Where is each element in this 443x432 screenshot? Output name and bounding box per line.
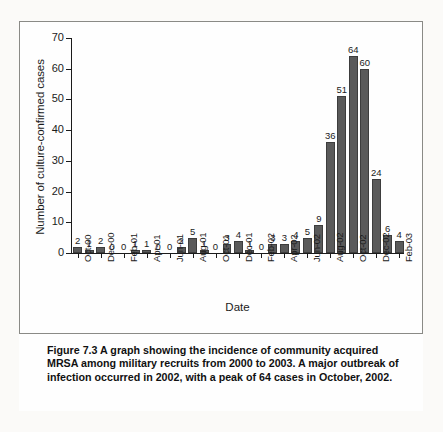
bar-slot: 36 — [325, 38, 336, 253]
x-tick-mark — [78, 253, 79, 258]
y-tick-label: 30 — [52, 154, 64, 166]
x-tick-label: Feb-02 — [265, 233, 276, 262]
x-tick-mark — [284, 253, 285, 258]
bar-value-label: 60 — [360, 58, 371, 68]
bar — [360, 69, 369, 253]
bar — [188, 238, 197, 253]
x-tick-mark — [147, 253, 148, 258]
bar-slot: 2 — [72, 38, 83, 253]
bar-slot: 2 — [95, 38, 106, 253]
bar-slot: 24 — [371, 38, 382, 253]
x-tick-label: Dec-00 — [105, 233, 116, 262]
bar-value-label: 5 — [190, 227, 195, 237]
x-tick-mark — [307, 253, 308, 258]
x-tick-label: Feb-03 — [403, 233, 414, 262]
bar-slot: 4 — [233, 38, 244, 253]
bar-slot: 4 — [290, 38, 301, 253]
bar-slot: 51 — [336, 38, 347, 253]
bar-slot: 5 — [187, 38, 198, 253]
y-tick-label: 0 — [58, 246, 64, 258]
y-tick-label: 60 — [52, 62, 64, 74]
chart: Number of culture-confirmed cases 010203… — [19, 21, 423, 333]
y-tick-mark — [66, 161, 71, 162]
bar-slot: 0 — [106, 38, 117, 253]
bar-slot: 3 — [279, 38, 290, 253]
bar — [234, 241, 243, 253]
x-tick-label: Oct-02 — [357, 235, 368, 262]
bar-value-label: 0 — [121, 242, 126, 252]
bar-value-label: 4 — [397, 230, 402, 240]
bar-value-label: 0 — [213, 242, 218, 252]
x-tick-mark — [330, 253, 331, 258]
y-axis-title: Number of culture-confirmed cases — [34, 47, 46, 247]
x-tick-mark — [170, 253, 171, 258]
bar-value-label: 0 — [259, 242, 264, 252]
bar-slot: 9 — [313, 38, 324, 253]
bar-slot: 5 — [302, 38, 313, 253]
x-tick-mark — [239, 253, 240, 258]
plot-area: 010203040506070 212001100251034103345936… — [71, 38, 404, 253]
bar-value-label: 2 — [75, 236, 80, 246]
bar-slot: 60 — [359, 38, 370, 253]
x-tick-mark — [193, 253, 194, 258]
x-tick-label: Jun-01 — [174, 234, 185, 262]
x-tick-label: Jun-02 — [311, 234, 322, 262]
figure-caption-text: A graph showing the incidence of communi… — [47, 344, 399, 383]
bar-slot: 1 — [129, 38, 140, 253]
y-tick-mark — [66, 38, 71, 39]
x-tick-mark — [376, 253, 377, 258]
bar-value-label: 51 — [337, 85, 348, 95]
x-tick-label: Feb-01 — [128, 233, 139, 262]
bar-value-label: 4 — [236, 230, 241, 240]
bar-slot: 4 — [394, 38, 405, 253]
figure-number: Figure 7.3 — [47, 344, 97, 356]
x-axis-title: Date — [71, 301, 404, 313]
y-tick-label: 10 — [52, 215, 64, 227]
bar-slot: 0 — [164, 38, 175, 253]
bar-slot: 1 — [198, 38, 209, 253]
y-tick-label: 50 — [52, 92, 64, 104]
bar-value-label: 9 — [316, 214, 321, 224]
bar-value-label: 3 — [282, 233, 287, 243]
y-tick-mark — [66, 69, 71, 70]
bar-slot: 1 — [141, 38, 152, 253]
x-tick-mark — [399, 253, 400, 258]
bar — [349, 56, 358, 253]
x-tick-mark — [261, 253, 262, 258]
bar-value-label: 36 — [325, 131, 336, 141]
bar-slot: 0 — [152, 38, 163, 253]
y-tick-label: 20 — [52, 185, 64, 197]
bar-slot: 64 — [348, 38, 359, 253]
bar-slot: 1 — [83, 38, 94, 253]
bar-slot: 0 — [118, 38, 129, 253]
x-tick-label: Oct-01 — [220, 235, 231, 262]
bar-slot: 1 — [244, 38, 255, 253]
bar-slot: 0 — [210, 38, 221, 253]
y-tick-mark — [66, 130, 71, 131]
y-tick-mark — [66, 253, 71, 254]
bar-value-label: 0 — [167, 242, 172, 252]
bar-value-label: 5 — [305, 227, 310, 237]
bar-value-label: 24 — [371, 168, 382, 178]
figure-page: Number of culture-confirmed cases 010203… — [0, 0, 443, 432]
x-tick-mark — [353, 253, 354, 258]
y-tick-mark — [66, 192, 71, 193]
x-tick-label: Aug-02 — [334, 233, 345, 262]
bar-slot: 3 — [221, 38, 232, 253]
x-tick-label: Apr-01 — [151, 235, 162, 262]
y-tick-label: 70 — [52, 31, 64, 43]
bar-slot: 2 — [175, 38, 186, 253]
y-tick-mark — [66, 99, 71, 100]
x-tick-label: Oct-00 — [82, 235, 93, 262]
bar-slot: 3 — [267, 38, 278, 253]
x-tick-mark — [101, 253, 102, 258]
y-tick-mark — [66, 222, 71, 223]
bar-slot: 6 — [382, 38, 393, 253]
bar — [337, 96, 346, 253]
bar-value-label: 2 — [98, 236, 103, 246]
figure-caption: Figure 7.3 A graph showing the incidence… — [19, 333, 423, 411]
x-tick-label: Apr-02 — [288, 235, 299, 262]
bar-value-label: 1 — [144, 239, 149, 249]
x-tick-mark — [124, 253, 125, 258]
y-tick-label: 40 — [52, 123, 64, 135]
